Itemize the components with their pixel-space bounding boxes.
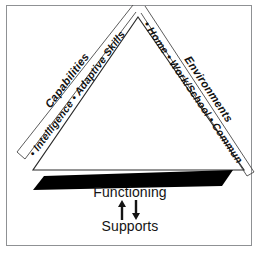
left-band-cap-line	[17, 152, 25, 159]
supports-label: Supports	[0, 218, 260, 234]
right-band-cap-line	[247, 172, 254, 176]
figure-container: Capabilities • Intelligence • Adaptive S…	[0, 0, 260, 254]
functioning-label: Functioning	[0, 184, 260, 200]
right-outer-guide-line	[145, 6, 254, 172]
up-down-arrow-icon	[113, 200, 147, 220]
left-inner-label: • Intelligence • Adaptive Skills	[27, 29, 127, 159]
